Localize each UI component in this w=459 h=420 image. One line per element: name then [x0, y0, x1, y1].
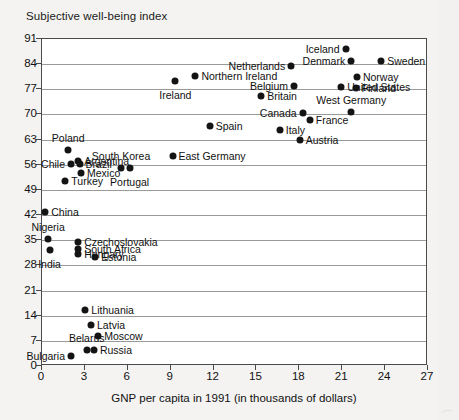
x-tick-label: 9 [166, 370, 172, 382]
x-tick-label: 6 [124, 370, 130, 382]
x-tick-label: 21 [335, 370, 348, 382]
x-axis-title: GNP per capita in 1991 (in thousands of … [41, 392, 427, 404]
x-tick-label: 27 [421, 370, 434, 382]
corner-smudge-icon [441, 408, 453, 414]
x-axis: 0369121518212427 [0, 0, 459, 420]
x-tick-label: 18 [292, 370, 305, 382]
x-tick-label: 15 [249, 370, 262, 382]
page-background: Subjective well-being index 071421283542… [0, 0, 459, 420]
x-tick-label: 3 [81, 370, 87, 382]
x-tick-label: 24 [378, 370, 391, 382]
x-tick-label: 0 [38, 370, 44, 382]
x-tick-label: 12 [206, 370, 219, 382]
